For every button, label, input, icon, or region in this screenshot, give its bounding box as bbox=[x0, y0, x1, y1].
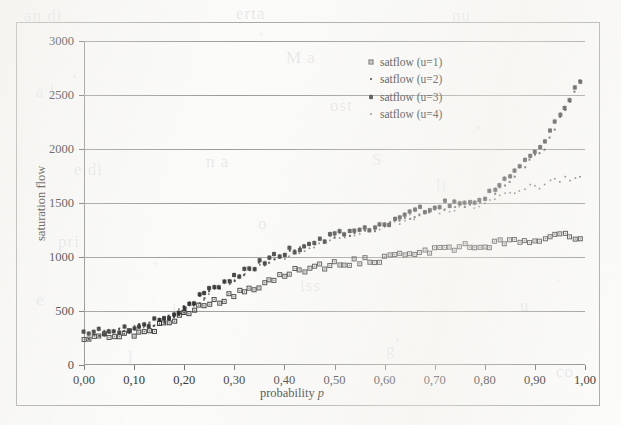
bleed-text: erta bbox=[236, 4, 265, 24]
x-tick-mark bbox=[435, 365, 436, 370]
y-axis-title: saturation flow bbox=[34, 165, 49, 240]
x-tick-mark bbox=[134, 365, 135, 370]
x-tick-mark bbox=[585, 365, 586, 370]
chart-legend: satflow (u=1)satflow (u=2)satflow (u=3)s… bbox=[362, 53, 442, 123]
x-tick-mark bbox=[184, 365, 185, 370]
x-tick-mark bbox=[234, 365, 235, 370]
y-tick-mark bbox=[79, 149, 84, 150]
legend-item-u4: satflow (u=4) bbox=[362, 106, 442, 124]
y-tick-mark bbox=[79, 257, 84, 258]
y-tick-label: 0 bbox=[0, 358, 74, 373]
x-axis-title-variable: p bbox=[318, 386, 324, 400]
y-tick-label: 1000 bbox=[0, 250, 74, 265]
gridline-horizontal bbox=[84, 149, 585, 150]
y-tick-label: 2500 bbox=[0, 88, 74, 103]
legend-marker-asterisk-square-icon bbox=[362, 91, 380, 103]
legend-label: satflow (u=1) bbox=[380, 56, 442, 68]
legend-label: satflow (u=4) bbox=[380, 108, 442, 120]
y-tick-mark bbox=[79, 203, 84, 204]
legend-marker-filled-square-icon bbox=[362, 56, 380, 68]
x-tick-mark bbox=[385, 365, 386, 370]
y-tick-label: 2000 bbox=[0, 142, 74, 157]
legend-item-u2: satflow (u=2) bbox=[362, 71, 442, 89]
x-tick-mark bbox=[485, 365, 486, 370]
x-axis-title: probability p bbox=[0, 386, 584, 401]
legend-item-u3: satflow (u=3) bbox=[362, 88, 442, 106]
x-tick-mark bbox=[284, 365, 285, 370]
y-tick-label: 500 bbox=[0, 304, 74, 319]
y-tick-mark bbox=[79, 41, 84, 42]
y-tick-mark bbox=[79, 95, 84, 96]
gridline-horizontal bbox=[84, 95, 585, 96]
x-tick-mark bbox=[535, 365, 536, 370]
y-tick-mark bbox=[79, 311, 84, 312]
gridline-horizontal bbox=[84, 203, 585, 204]
legend-label: satflow (u=3) bbox=[380, 91, 442, 103]
legend-item-u1: satflow (u=1) bbox=[362, 53, 442, 71]
chart-page: an diertanua lM aoste din aSliprioaei si… bbox=[0, 0, 621, 425]
y-tick-label: 3000 bbox=[0, 34, 74, 49]
legend-marker-tiny-dot-icon bbox=[362, 108, 380, 120]
legend-marker-small-dot-icon bbox=[362, 73, 380, 85]
x-tick-mark bbox=[335, 365, 336, 370]
x-tick-mark bbox=[84, 365, 85, 370]
gridline-horizontal bbox=[84, 311, 585, 312]
gridline-horizontal bbox=[84, 41, 585, 42]
legend-label: satflow (u=2) bbox=[380, 73, 442, 85]
gridline-horizontal bbox=[84, 257, 585, 258]
